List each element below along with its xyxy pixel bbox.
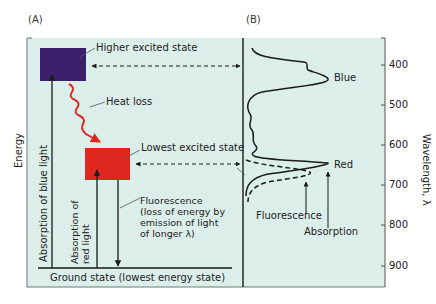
absorption-blue-label: Absorption of blue light — [38, 145, 50, 262]
tick-500: 500 — [389, 99, 408, 111]
tick-900: 900 — [389, 260, 408, 272]
energy-axis-label: Energy — [13, 133, 25, 168]
tick-700: 700 — [389, 179, 408, 191]
tick-800: 800 — [389, 219, 408, 231]
blue-peak-label: Blue — [334, 72, 356, 84]
fluorescence-curve-label: Fluorescence — [256, 210, 322, 222]
absorption-red-line-2: red light — [81, 200, 92, 264]
absorption-curve-label: Absorption — [304, 226, 358, 238]
fluorescence-line-4: of longer λ) — [140, 229, 225, 240]
wavelength-axis-label: Wavelength, λ — [421, 134, 433, 206]
red-peak-label: Red — [334, 159, 353, 171]
tick-400: 400 — [389, 59, 408, 71]
higher-excited-state-label: Higher excited state — [96, 42, 197, 54]
higher-excited-state-box — [40, 48, 86, 81]
lowest-excited-state-box — [85, 148, 130, 180]
lowest-excited-state-label: Lowest excited state — [141, 142, 244, 154]
tick-600: 600 — [389, 139, 408, 151]
fluorescence-description: Fluorescence (loss of energy by emission… — [140, 196, 225, 240]
ground-state-label: Ground state (lowest energy state) — [50, 272, 225, 284]
absorption-red-label: Absorption of red light — [70, 200, 92, 264]
heat-loss-label: Heat loss — [106, 96, 152, 108]
